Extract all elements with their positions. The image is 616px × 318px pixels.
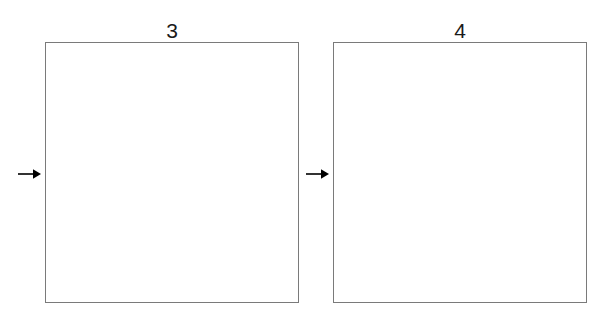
panel-box-3[interactable]	[45, 42, 299, 303]
panel-label-3: 3	[45, 20, 299, 41]
arrow-right-icon	[18, 167, 42, 185]
panel-label-4: 4	[333, 20, 587, 41]
panel-4: 4	[333, 20, 587, 303]
panel-3: 3	[45, 20, 299, 303]
panel-box-4[interactable]	[333, 42, 587, 303]
arrow-right-icon	[306, 167, 330, 185]
figure-canvas: 3 4	[0, 0, 616, 318]
